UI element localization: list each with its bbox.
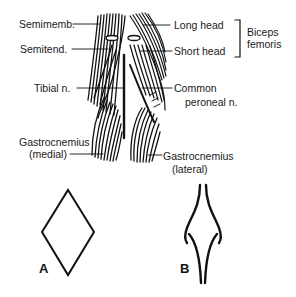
- label-biceps: Biceps: [247, 26, 279, 38]
- figure-a-diamond: [42, 190, 94, 275]
- figure-b-shape: [185, 185, 221, 283]
- label-long-head: Long head: [174, 19, 224, 31]
- label-short-head: Short head: [174, 45, 225, 57]
- figure-b-label: B: [180, 261, 189, 276]
- biceps-bracket: [235, 20, 240, 57]
- label-tibial: Tibial n.: [34, 82, 70, 94]
- label-gastroc-medial-2: (medial): [29, 148, 67, 160]
- label-femoris: femoris: [247, 38, 281, 50]
- biceps-tendon: [128, 36, 140, 41]
- figure-a-label: A: [39, 261, 48, 276]
- biceps-femoris: [130, 13, 166, 110]
- label-gastroc-lateral-2: (lateral): [172, 163, 208, 175]
- gastrocnemius-lateral: [131, 108, 160, 162]
- semitend-tendon: [106, 36, 118, 41]
- label-gastroc-lateral-1: Gastrocnemius: [163, 150, 234, 162]
- label-gastroc-medial-1: Gastrocnemius: [19, 136, 90, 148]
- label-semitend: Semitend.: [20, 43, 67, 55]
- label-semimemb: Semimemb.: [19, 18, 75, 30]
- label-peroneal: peroneal n.: [185, 96, 238, 108]
- label-common: Common: [174, 82, 217, 94]
